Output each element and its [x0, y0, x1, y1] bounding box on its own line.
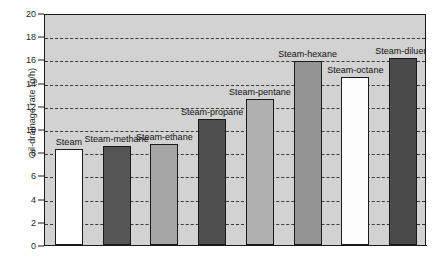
bar-label: Steam-diluent — [375, 46, 426, 56]
y-tick-label: 12 — [26, 102, 36, 112]
bar-label: Steam-hexane — [278, 49, 337, 59]
y-tick-label: 10 — [26, 125, 36, 135]
bar-label: Steam — [56, 137, 82, 147]
bar-label: Steam-ethane — [136, 132, 193, 142]
bar[interactable] — [150, 144, 178, 245]
y-tick-label: 16 — [26, 55, 36, 65]
bar[interactable] — [55, 149, 83, 245]
y-axis-tick-labels: 02468101214161820 — [14, 14, 36, 246]
bar[interactable] — [294, 61, 322, 245]
y-tick-label: 14 — [26, 79, 36, 89]
bar[interactable] — [389, 58, 417, 245]
bar-label: Steam-pentane — [229, 87, 291, 97]
y-tick-label: 6 — [31, 171, 36, 181]
bar[interactable] — [341, 77, 369, 245]
y-axis-line — [44, 14, 45, 246]
plot-area: SteamSteam-methaneSteam-ethaneSteam-prop… — [44, 14, 426, 246]
y-tick-label: 18 — [26, 32, 36, 42]
bar[interactable] — [103, 146, 131, 245]
bar-label: Steam-propane — [181, 107, 243, 117]
y-tick-label: 20 — [26, 9, 36, 19]
bars-layer: SteamSteam-methaneSteam-ethaneSteam-prop… — [45, 15, 425, 245]
y-tick-label: 4 — [31, 195, 36, 205]
bar-chart: Oil-drainage rate (g/h) 0246810121416182… — [0, 0, 435, 273]
bar[interactable] — [198, 119, 226, 245]
y-tick-label: 8 — [31, 148, 36, 158]
bar-label: Steam-octane — [327, 65, 383, 75]
y-tick-label: 0 — [31, 241, 36, 251]
bar[interactable] — [246, 99, 274, 245]
x-axis-line — [44, 245, 427, 246]
y-tick-label: 2 — [31, 218, 36, 228]
